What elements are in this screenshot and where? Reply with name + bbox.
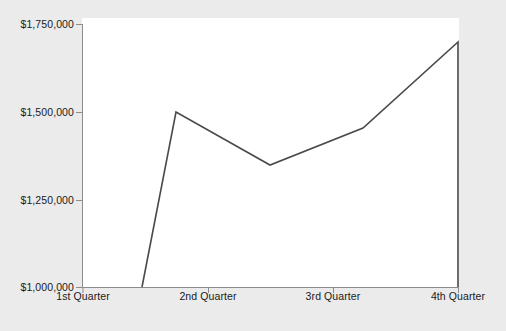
chart-canvas <box>0 0 506 331</box>
x-axis-tick-label-q4: 4th Quarter <box>388 289 506 303</box>
line-chart: $1,750,000 $1,500,000 $1,250,000 $1,000,… <box>0 0 506 331</box>
y-tick-label: $1,250,000 <box>2 194 74 206</box>
y-axis-tick-1250000: $1,250,000 <box>0 194 74 206</box>
x-axis-tick-label-q2: 2nd Quarter <box>138 289 278 303</box>
y-axis-tick-1500000: $1,500,000 <box>0 106 74 118</box>
y-axis-tick-1750000: $1,750,000 <box>0 18 74 30</box>
axis-lines <box>83 24 460 288</box>
x-axis-tick-label-q1: 1st Quarter <box>13 289 153 303</box>
y-tick-label: $1,750,000 <box>2 18 74 30</box>
data-series-line <box>142 42 458 287</box>
y-axis-ticks <box>76 25 83 288</box>
y-tick-label: $1,500,000 <box>2 106 74 118</box>
x-axis-tick-label-q3: 3rd Quarter <box>263 289 403 303</box>
